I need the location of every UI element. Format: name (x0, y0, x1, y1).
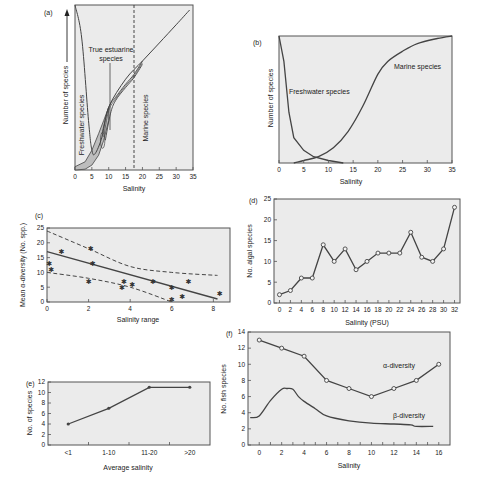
y-tick-label: 0 (41, 441, 45, 448)
x-tick-label: 14 (413, 449, 421, 456)
data-point: ✱ (150, 278, 156, 286)
x-tick-label: 2 (87, 305, 91, 312)
x-tick-label: 30 (440, 306, 448, 313)
x-axis-label: Salinity (338, 462, 361, 470)
data-point (188, 386, 191, 389)
data-point (321, 243, 325, 247)
label-beta-diversity: β-diversity (393, 412, 426, 420)
panel-c: ✱✱✱✱✱✱✱✱✱✱✱✱✱✱✱024680510152025Salinity r… (19, 212, 230, 324)
x-tick-label: 16 (363, 306, 371, 313)
x-tick-label: 8 (347, 449, 351, 456)
y-tick-label: 12 (38, 378, 46, 385)
x-tick-label: 16 (435, 449, 443, 456)
y-tick-label: 2 (241, 425, 245, 432)
y-axis-label: Mean α-diversity (No. spp.) (19, 223, 27, 307)
x-tick-label: 15 (122, 173, 130, 180)
x-tick-label: 0 (257, 449, 261, 456)
data-point: ✱ (86, 278, 92, 286)
x-tick-label: 11-20 (141, 449, 158, 456)
data-point (354, 268, 358, 272)
x-tick-label: 26 (418, 306, 426, 313)
data-point (107, 407, 110, 410)
y-tick-label: 5 (40, 284, 44, 291)
data-point (365, 259, 369, 263)
data-point (288, 289, 292, 293)
y-axis-label: Number of species (62, 65, 70, 124)
y-tick-label: 15 (264, 237, 272, 244)
panel-label: (f) (226, 330, 233, 338)
x-tick-label: 20 (385, 306, 393, 313)
data-point: ✱ (121, 278, 127, 286)
y-tick-label: 15 (37, 254, 45, 261)
label-freshwater-species: Freshwater species (289, 88, 350, 96)
panel-e: <11-1011-20>20024681012Average salinityN… (26, 378, 210, 472)
y-tick-label: 5 (267, 279, 271, 286)
panel-label: (c) (35, 212, 43, 220)
data-point (453, 205, 457, 209)
x-tick-label: 15 (350, 166, 358, 173)
x-tick-label: 6 (325, 449, 329, 456)
x-tick-label: 6 (310, 306, 314, 313)
x-tick-label: 30 (424, 166, 432, 173)
x-tick-label: 0 (277, 166, 281, 173)
x-tick-label: 5 (302, 166, 306, 173)
x-tick-label: 14 (352, 306, 360, 313)
data-point: ✱ (185, 278, 191, 286)
x-tick-label: 25 (399, 166, 407, 173)
plot-area (48, 382, 210, 445)
data-point: ✱ (90, 260, 96, 268)
x-tick-label: 0 (278, 306, 282, 313)
y-tick-label: 14 (238, 328, 246, 335)
data-point (392, 387, 396, 391)
x-tick-label: 12 (390, 449, 398, 456)
data-point (302, 354, 306, 358)
y-tick-label: 12 (238, 344, 246, 351)
y-tick-label: 10 (38, 389, 46, 396)
data-point (325, 378, 329, 382)
y-tick-label: 4 (241, 409, 245, 416)
data-point (387, 251, 391, 255)
data-point (437, 362, 441, 366)
data-point (414, 378, 418, 382)
x-tick-label: 35 (448, 166, 456, 173)
data-point (67, 422, 70, 425)
label-marine-species: Marine species (142, 94, 150, 142)
y-tick-label: 20 (264, 216, 272, 223)
x-axis-label: Salinity (PSU) (345, 319, 389, 327)
x-tick-label: 10 (325, 166, 333, 173)
panel-a: True estuarinespeciesFreshwater speciesM… (44, 5, 197, 193)
data-point (257, 338, 261, 342)
y-tick-label: 25 (37, 224, 45, 231)
y-tick-label: 25 (264, 195, 272, 202)
x-tick-label: 10 (105, 173, 113, 180)
x-tick-label: 32 (451, 306, 459, 313)
x-tick-label: 10 (368, 449, 376, 456)
x-tick-label: 30 (173, 173, 181, 180)
y-tick-label: 10 (37, 269, 45, 276)
x-tick-label: 24 (407, 306, 415, 313)
x-tick-label: 1-10 (102, 449, 115, 456)
arrow-head-icon (65, 9, 70, 16)
y-tick-label: 0 (267, 299, 271, 306)
x-axis-label: Salinity (123, 185, 146, 193)
label-true-estuarine: species (99, 55, 123, 63)
x-tick-label: 35 (189, 173, 197, 180)
data-point (299, 276, 303, 280)
x-tick-label: 22 (396, 306, 404, 313)
label-true-estuarine: True estuarine (89, 46, 134, 53)
y-tick-label: 2 (41, 431, 45, 438)
x-tick-label: 4 (300, 306, 304, 313)
x-tick-label: 0 (45, 305, 49, 312)
y-tick-label: 4 (41, 420, 45, 427)
y-axis-label: Number of species (267, 68, 275, 127)
y-tick-label: 6 (41, 410, 45, 417)
data-point (310, 276, 314, 280)
plot-area (47, 228, 230, 302)
x-tick-label: 8 (212, 305, 216, 312)
x-tick-label: 5 (90, 173, 94, 180)
data-point (431, 259, 435, 263)
figure-canvas: True estuarinespeciesFreshwater speciesM… (0, 0, 479, 490)
x-tick-label: 4 (302, 449, 306, 456)
y-tick-label: 10 (264, 258, 272, 265)
data-point (332, 259, 336, 263)
